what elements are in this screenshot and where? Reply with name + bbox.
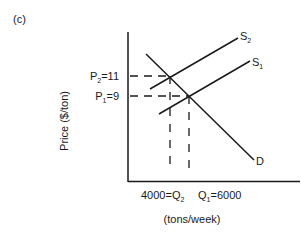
demand-curve bbox=[146, 54, 254, 160]
supply-curve-s1 bbox=[159, 61, 250, 114]
quantity-label-q1: Q1=6000 bbox=[198, 189, 241, 203]
quantity-label-q2: 4000=Q2 bbox=[141, 189, 184, 203]
demand-label: D bbox=[256, 155, 264, 167]
price-label-p1: P1=9 bbox=[95, 90, 119, 104]
supply-label-s2: S2 bbox=[240, 30, 251, 44]
supply-curve-s2 bbox=[150, 38, 238, 89]
y-axis-label: Price ($/ton) bbox=[58, 91, 70, 151]
supply-label-s1: S1 bbox=[252, 56, 263, 70]
panel-label: (c) bbox=[13, 13, 26, 25]
x-axis-label: (tons/week) bbox=[164, 213, 221, 225]
price-label-p2: P2=11 bbox=[90, 70, 119, 84]
supply-demand-diagram: (c) Price ($/ton) P2=11 P1=9 D S2 S1 400… bbox=[0, 0, 301, 237]
